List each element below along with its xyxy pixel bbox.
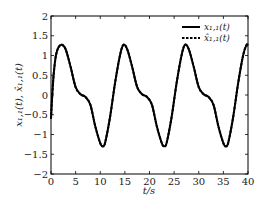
y-tick-label: −0.5 — [24, 109, 48, 120]
x-tick-label: 25 — [168, 176, 181, 187]
x-tick-label: 40 — [242, 176, 255, 187]
y-tick-label: −1.5 — [24, 149, 48, 160]
y-tick-label: 2 — [42, 11, 48, 22]
line-chart: 0510152025303540 21.510.50−0.5−1−1.5−2 x… — [0, 0, 264, 207]
x-axis-label: t/s — [143, 185, 156, 196]
x-tick-label: 5 — [72, 176, 78, 187]
legend: x₁,₁(t) x̂₁,₁(t) — [182, 22, 230, 43]
y-tick-label: 1 — [42, 50, 48, 61]
x-tick-label: 15 — [119, 176, 132, 187]
series-actual-line — [51, 44, 248, 146]
x-tick-label: 30 — [192, 176, 205, 187]
legend-label-estimate: x̂₁,₁(t) — [204, 33, 230, 43]
series-layer — [51, 44, 248, 146]
y-axis-label: x₁,₁(t), x̂₁,₁(t) — [13, 63, 24, 127]
x-tick-label: 35 — [217, 176, 230, 187]
y-tick-label: 0 — [42, 90, 48, 101]
x-tick-label: 0 — [48, 176, 54, 187]
y-tick-label: −1 — [33, 129, 48, 140]
y-tick-label: −2 — [33, 169, 48, 180]
y-tick-label: 0.5 — [32, 70, 48, 81]
legend-label-actual: x₁,₁(t) — [204, 22, 230, 32]
x-tick-label: 10 — [94, 176, 107, 187]
y-tick-label: 1.5 — [32, 30, 48, 41]
